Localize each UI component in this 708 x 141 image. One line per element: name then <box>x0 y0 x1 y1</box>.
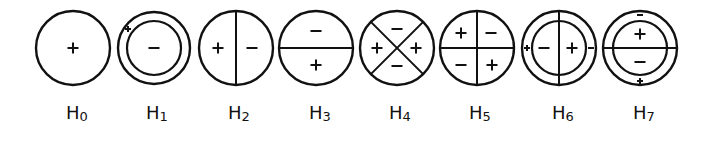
label-h0-main: H <box>66 102 80 123</box>
mode-h5 <box>440 11 514 85</box>
label-h3-sub: 3 <box>323 109 331 124</box>
label-h1-sub: 1 <box>160 109 168 124</box>
label-h6-sub: 6 <box>566 109 574 124</box>
mode-h7 <box>603 11 677 85</box>
mode-h3 <box>279 11 353 85</box>
label-h3: H3 <box>309 104 331 128</box>
mode-h1 <box>118 12 190 84</box>
label-h4-main: H <box>389 102 403 123</box>
label-h1-main: H <box>146 102 160 123</box>
label-h0: H0 <box>66 104 88 128</box>
label-h7: H7 <box>633 104 655 128</box>
label-h4-sub: 4 <box>403 109 411 124</box>
label-h5: H5 <box>469 104 491 128</box>
mode-h4 <box>360 11 434 85</box>
label-h2-sub: 2 <box>242 109 250 124</box>
label-h7-main: H <box>633 102 647 123</box>
label-h3-main: H <box>309 102 323 123</box>
label-h0-sub: 0 <box>80 109 88 124</box>
mode-h2 <box>199 11 273 85</box>
mode-h0 <box>36 11 110 85</box>
label-h4: H4 <box>389 104 411 128</box>
label-h2-main: H <box>228 102 242 123</box>
label-h5-main: H <box>469 102 483 123</box>
label-h1: H1 <box>146 104 168 128</box>
label-h2: H2 <box>228 104 250 128</box>
label-h6: H6 <box>552 104 574 128</box>
label-h6-main: H <box>552 102 566 123</box>
label-h7-sub: 7 <box>647 109 655 124</box>
mode-h6 <box>522 11 596 85</box>
label-h5-sub: 5 <box>483 109 491 124</box>
hermite-gaussian-mode-diagram <box>0 0 708 141</box>
